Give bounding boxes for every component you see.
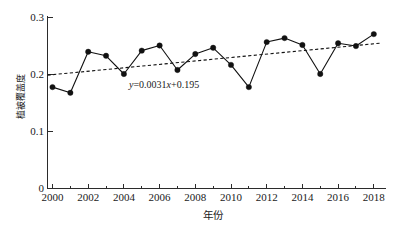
data-point-marker <box>193 51 198 56</box>
data-point-marker <box>300 42 305 47</box>
x-tick-label: 2018 <box>363 191 386 203</box>
x-tick-label: 2008 <box>184 191 207 203</box>
vegetation-coverage-line-chart: 0.3 0.2 0.1 0 <box>0 0 404 231</box>
x-tick-label: 2000 <box>42 191 65 203</box>
y-tick-label: 0.3 <box>30 11 44 23</box>
data-point-marker <box>228 62 233 67</box>
data-point-marker <box>282 35 287 40</box>
equation-intercept: +0.195 <box>171 79 199 90</box>
data-point-marker <box>353 43 358 48</box>
x-tick-label: 2006 <box>149 191 172 203</box>
data-point-marker <box>175 67 180 72</box>
equation-coefficient: =0.0031 <box>133 79 166 90</box>
data-point-marker <box>68 90 73 95</box>
data-point-marker <box>246 84 251 89</box>
data-point-marker <box>157 43 162 48</box>
y-axis-title: 植被覆盖度 <box>15 74 26 119</box>
y-tick-label: 0.1 <box>30 125 44 137</box>
x-tick-label: 2010 <box>220 191 243 203</box>
chart-container: 0.3 0.2 0.1 0 <box>0 0 404 231</box>
data-point-marker <box>318 71 323 76</box>
x-tick-label: 2002 <box>77 191 99 203</box>
data-point-marker <box>371 31 376 36</box>
data-point-marker <box>210 45 215 50</box>
x-tick-label: 2004 <box>113 191 136 203</box>
data-point-marker <box>50 84 55 89</box>
data-point-marker <box>86 49 91 54</box>
y-tick-label: 0.2 <box>30 68 44 80</box>
x-axis-title: 年份 <box>203 209 224 221</box>
data-point-marker <box>121 71 126 76</box>
data-point-marker <box>264 39 269 44</box>
x-tick-label: 2012 <box>256 191 278 203</box>
trendline-equation-label: y=0.0031x+0.195 <box>128 79 199 90</box>
x-tick-label: 2016 <box>327 191 350 203</box>
data-point-marker <box>335 41 340 46</box>
data-point-marker <box>139 48 144 53</box>
data-point-marker <box>103 53 108 58</box>
x-tick-label: 2014 <box>291 191 314 203</box>
